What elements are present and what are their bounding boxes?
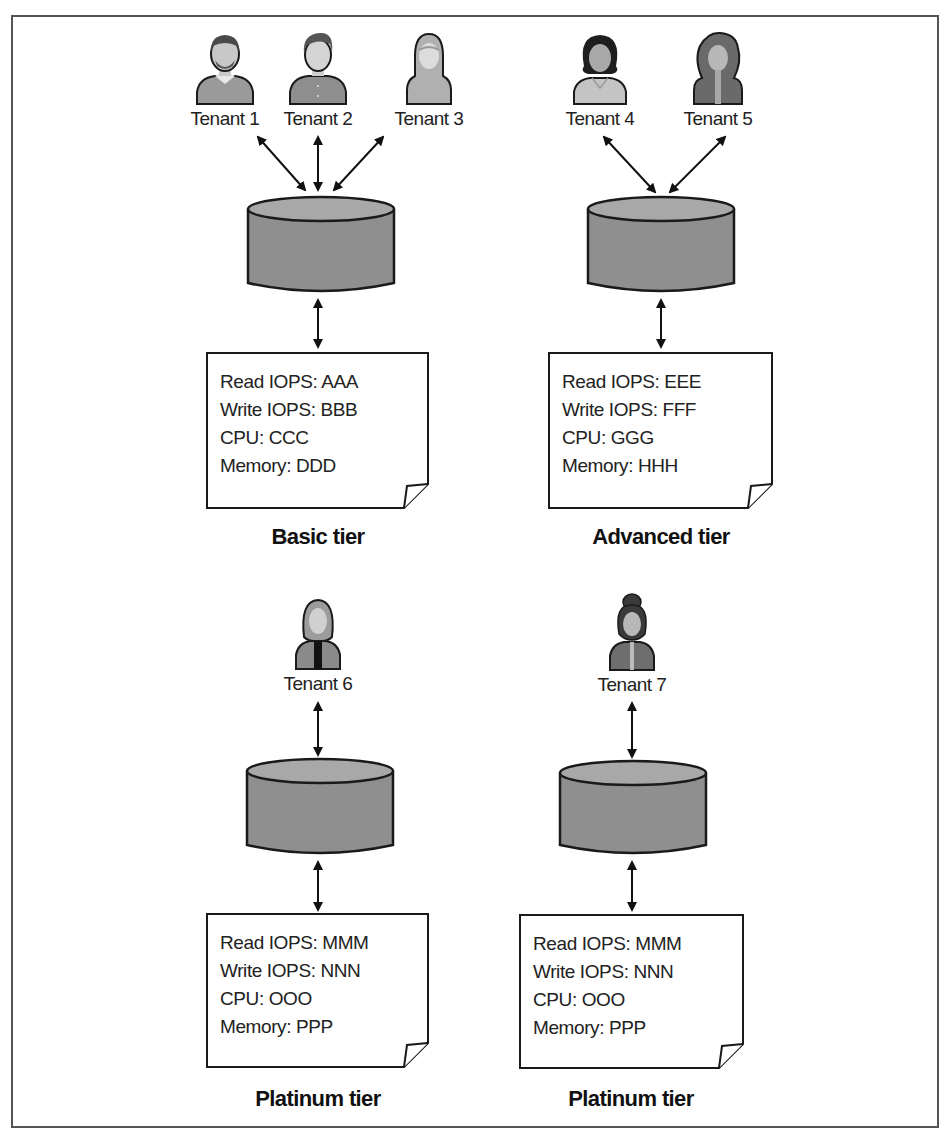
tenant-label: Tenant 6 [268,673,368,695]
woman-avatar-icon [568,30,632,106]
tenant-2: Tenant 2 [268,30,368,130]
tenant-6: Tenant 6 [268,597,368,695]
tier-label-platinum-1: Platinum tier [198,1086,438,1112]
tier-label-platinum-2: Platinum tier [511,1086,751,1112]
woman-curly-avatar-icon [686,30,750,106]
spec-memory: Memory: PPP [220,1013,369,1041]
tenant-7: Tenant 7 [582,592,682,696]
spec-note-basic: Read IOPS: AAA Write IOPS: BBB CPU: CCC … [206,352,430,510]
man-beard-avatar-icon [193,30,257,106]
tenant-label: Tenant 7 [582,674,682,696]
tenant-5: Tenant 5 [668,30,768,130]
woman-tie-avatar-icon [292,597,344,671]
spec-read-iops: Read IOPS: MMM [533,930,682,958]
woman-bun-avatar-icon [606,592,658,672]
tenant-1: Tenant 1 [175,30,275,130]
spec-write-iops: Write IOPS: BBB [220,396,358,424]
spec-read-iops: Read IOPS: EEE [562,368,701,396]
spec-cpu: CPU: OOO [533,986,682,1014]
database-cylinder-basic [246,195,396,299]
spec-note-platinum-1: Read IOPS: MMM Write IOPS: NNN CPU: OOO … [206,913,430,1069]
spec-write-iops: Write IOPS: FFF [562,396,701,424]
tenant-label: Tenant 5 [668,108,768,130]
spec-read-iops: Read IOPS: MMM [220,929,369,957]
spec-write-iops: Write IOPS: NNN [220,957,369,985]
connector-arrows [0,0,952,1140]
arrow-tenant4-db [604,137,655,192]
tenant-label: Tenant 2 [268,108,368,130]
tier-label-basic: Basic tier [198,524,438,550]
spec-memory: Memory: HHH [562,452,701,480]
man-avatar-icon [286,30,350,106]
spec-cpu: CPU: GGG [562,424,701,452]
database-cylinder-advanced [586,195,736,299]
spec-memory: Memory: PPP [533,1014,682,1042]
tenant-label: Tenant 3 [379,108,479,130]
database-cylinder-platinum-2 [558,759,708,861]
arrow-tenant5-db [670,137,725,192]
spec-note-advanced: Read IOPS: EEE Write IOPS: FFF CPU: GGG … [548,352,774,510]
spec-read-iops: Read IOPS: AAA [220,368,358,396]
spec-write-iops: Write IOPS: NNN [533,958,682,986]
tenant-4: Tenant 4 [550,30,650,130]
spec-cpu: CPU: CCC [220,424,358,452]
spec-note-platinum-2: Read IOPS: MMM Write IOPS: NNN CPU: OOO … [519,914,745,1070]
spec-memory: Memory: DDD [220,452,358,480]
tenant-label: Tenant 4 [550,108,650,130]
woman-hijab-avatar-icon [397,30,461,106]
tenant-3: Tenant 3 [379,30,479,130]
spec-cpu: CPU: OOO [220,985,369,1013]
tenant-label: Tenant 1 [175,108,275,130]
arrow-tenant3-db [334,137,383,190]
arrow-tenant1-db [258,137,305,190]
database-cylinder-platinum-1 [245,757,395,861]
tier-label-advanced: Advanced tier [541,524,781,550]
